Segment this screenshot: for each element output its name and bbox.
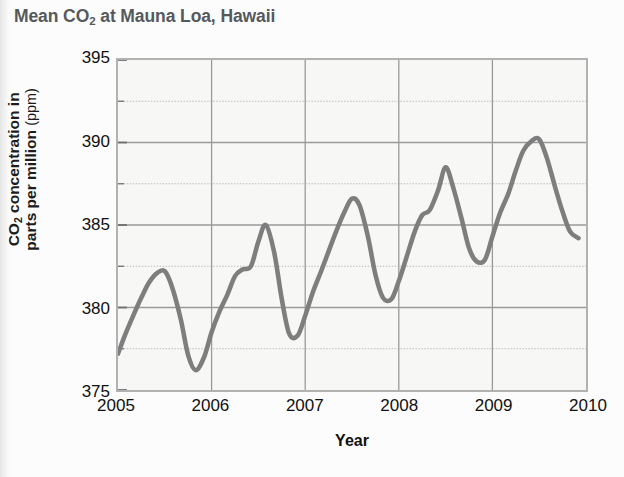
y-axis-title-unit: (ppm) [23,88,39,126]
x-axis-title: Year [116,432,588,450]
chart-title-post: at Mauna Loa, Hawaii [95,6,275,26]
y-axis-title-line2: parts per million [22,130,39,251]
x-tick-label-2006: 2006 [170,396,250,416]
co2-line-chart-figure: Mean CO2 at Mauna Loa, Hawaii 3753803853… [0,0,624,477]
plot-area [116,58,588,392]
x-axis-tick-labels: 200520062007200820092010 [116,396,588,424]
chart-title-subscript: 2 [89,15,95,27]
x-tick-label-2010: 2010 [548,396,624,416]
y-tick-label-395: 395 [54,48,110,68]
y-tick-label-385: 385 [54,215,110,235]
plot-canvas [118,60,586,390]
y-axis-title-pre: CO [5,223,22,246]
y-tick-label-390: 390 [54,132,110,152]
x-tick-label-2009: 2009 [454,396,534,416]
y-axis-title-subscript: 2 [12,217,24,223]
co2-series-line [118,138,579,370]
y-axis-tick-labels: 375380385390395 [48,58,110,392]
y-axis-title-post: concentration in [5,92,22,217]
chart-title: Mean CO2 at Mauna Loa, Hawaii [14,6,275,27]
y-axis-title: CO2 concentration in parts per million (… [5,0,40,379]
y-tick-label-380: 380 [54,299,110,319]
x-tick-label-2005: 2005 [76,396,156,416]
chart-title-pre: Mean CO [14,6,89,26]
x-tick-label-2008: 2008 [359,396,439,416]
x-tick-label-2007: 2007 [265,396,345,416]
